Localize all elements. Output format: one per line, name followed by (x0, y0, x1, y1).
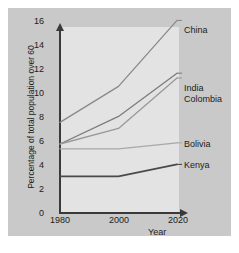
chart-figure: 0 2 4 6 8 10 12 14 16 1980 2000 2020 Per… (8, 8, 231, 236)
series-line-bolivia (60, 143, 177, 149)
series-label-bolivia: Bolivia (184, 139, 211, 149)
series-label-colombia: Colombia (184, 94, 222, 104)
series-label-kenya: Kenya (184, 160, 210, 170)
series-lines (8, 8, 231, 236)
series-label-india: India (184, 83, 204, 93)
series-label-china: China (184, 25, 208, 35)
series-line-india (60, 73, 177, 144)
series-line-kenya (60, 164, 177, 176)
series-line-china (60, 20, 177, 122)
